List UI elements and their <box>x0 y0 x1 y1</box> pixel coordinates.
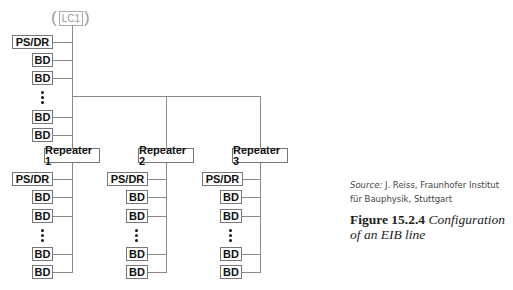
figure-number: Figure 15.2.4 <box>350 212 425 227</box>
main-line-vertical <box>72 26 73 148</box>
ellipsis-dots <box>135 229 138 244</box>
psdr-box: PS/DR <box>107 172 148 186</box>
connector <box>53 135 72 136</box>
connector <box>53 60 72 61</box>
connector <box>53 216 72 217</box>
bd-box: BD <box>126 265 148 279</box>
connector <box>53 254 72 255</box>
connector <box>148 254 166 255</box>
top-bd-box: BD <box>32 71 53 85</box>
bd-box: BD <box>32 265 53 279</box>
source-credit: Source: J. Reiss, Fraunhofer Institut fü… <box>350 178 510 206</box>
top-bd-box: BD <box>32 53 53 67</box>
connector <box>148 179 166 180</box>
connector <box>148 197 166 198</box>
ellipsis-dots <box>41 229 44 244</box>
connector <box>53 78 72 79</box>
connector <box>53 179 72 180</box>
connector <box>53 197 72 198</box>
bd-box: BD <box>126 209 148 223</box>
figure-caption: Source: J. Reiss, Fraunhofer Institut fü… <box>350 178 510 242</box>
source-label: Source: <box>350 180 382 190</box>
line-coupler-box: LC1 <box>59 11 83 26</box>
bus-drop-2 <box>166 96 167 148</box>
psdr-box: PS/DR <box>12 172 53 186</box>
connector <box>242 272 261 273</box>
ellipsis-dots <box>41 91 44 106</box>
connector <box>53 117 72 118</box>
bd-box: BD <box>32 190 53 204</box>
paren-open: ( <box>51 9 57 26</box>
connector <box>53 272 73 273</box>
bd-box: BD <box>220 190 242 204</box>
connector <box>148 216 166 217</box>
ellipsis-dots <box>229 229 232 244</box>
connector <box>53 42 72 43</box>
bd-box: BD <box>220 265 242 279</box>
connector <box>242 254 260 255</box>
top-bd-box: BD <box>32 110 53 124</box>
top-psdr-box: PS/DR <box>12 35 53 49</box>
bd-box: BD <box>126 247 148 261</box>
bd-box: BD <box>32 247 53 261</box>
repeater-1-box: Repeater 1 <box>44 148 100 163</box>
connector <box>243 179 260 180</box>
figure-title: Figure 15.2.4 Configuration of an EIB li… <box>350 212 510 242</box>
repeater-3-line <box>260 163 261 273</box>
bd-box: BD <box>220 247 242 261</box>
paren-close: ) <box>84 9 90 26</box>
bus-drop-3 <box>260 96 261 148</box>
connector <box>242 216 260 217</box>
repeater-1-line <box>72 163 73 273</box>
connector <box>148 272 167 273</box>
connector <box>242 197 260 198</box>
repeater-2-box: Repeater 2 <box>138 148 194 163</box>
top-bd-box: BD <box>32 128 53 142</box>
bd-box: BD <box>32 209 53 223</box>
repeater-2-line <box>166 163 167 273</box>
bd-box: BD <box>126 190 148 204</box>
bd-box: BD <box>220 209 242 223</box>
repeater-3-box: Repeater 3 <box>232 148 288 163</box>
psdr-box: PS/DR <box>202 172 243 186</box>
